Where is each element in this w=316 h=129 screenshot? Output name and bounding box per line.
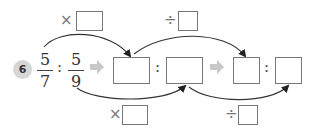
bottom-divisor-box[interactable] — [238, 105, 258, 125]
divide-sign-top: ÷ — [164, 13, 177, 28]
fraction-left-numerator: 5 — [37, 52, 53, 69]
gray-arrow-1 — [90, 60, 104, 74]
fraction-right: 5 9 — [68, 52, 84, 90]
top-multiplier-box[interactable] — [76, 11, 103, 31]
fraction-right-denominator: 9 — [68, 74, 84, 90]
top-divisor-box[interactable] — [178, 11, 198, 31]
ratio-colon-2: : — [155, 60, 160, 75]
step1-left-box[interactable] — [113, 57, 150, 84]
fraction-left-denominator: 7 — [37, 74, 53, 90]
bottom-multiplier-box[interactable] — [122, 105, 148, 125]
arrow-bottom-multiply — [77, 86, 185, 99]
arrow-top-divide — [134, 36, 245, 56]
gray-arrow-2 — [210, 60, 224, 74]
fraction-left: 5 7 — [37, 52, 53, 90]
multiply-sign-bottom: × — [109, 107, 122, 122]
step2-left-box[interactable] — [233, 57, 260, 84]
ratio-colon-3: : — [264, 60, 269, 75]
multiply-sign-top: × — [60, 13, 73, 28]
step2-right-box[interactable] — [275, 57, 302, 84]
step1-right-box[interactable] — [166, 57, 203, 84]
fraction-bar — [68, 70, 84, 71]
arrow-top-multiply — [44, 34, 130, 56]
problem-number-badge: 6 — [13, 60, 32, 79]
fraction-bar — [37, 70, 53, 71]
divide-sign-bottom: ÷ — [225, 107, 238, 122]
ratio-colon-1: : — [57, 60, 62, 75]
fraction-right-numerator: 5 — [68, 52, 84, 69]
arrow-bottom-divide — [189, 86, 288, 100]
